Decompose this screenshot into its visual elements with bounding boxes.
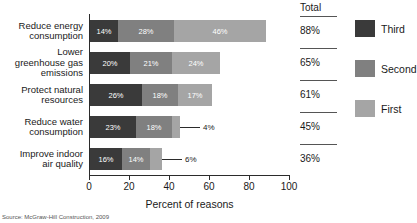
total-row-divider bbox=[300, 48, 337, 49]
bar-row[interactable]: 16%14% bbox=[90, 148, 162, 170]
total-value: 36% bbox=[300, 153, 340, 164]
total-row-divider bbox=[300, 144, 337, 145]
total-value: 61% bbox=[300, 89, 340, 100]
stacked-bar: 23%18% bbox=[90, 116, 180, 138]
bar-segment-second: 18% bbox=[142, 84, 178, 106]
total-value: 88% bbox=[300, 25, 340, 36]
category-label: Lowergreenhouse gasemissions bbox=[0, 45, 86, 81]
category-label: Improve indoorair quality bbox=[0, 141, 86, 177]
category-label-line: resources bbox=[41, 95, 83, 106]
bar-segment-first: 46% bbox=[174, 20, 266, 42]
bar-segment-second: 28% bbox=[118, 20, 174, 42]
category-label-line: air quality bbox=[42, 159, 83, 170]
legend-label: Third bbox=[381, 23, 405, 35]
x-tick-label: 20 bbox=[123, 181, 134, 192]
bar-row[interactable]: 26%18%17% bbox=[90, 84, 212, 106]
total-row-divider bbox=[300, 80, 337, 81]
x-tick-label: 80 bbox=[243, 181, 254, 192]
bar-segment-second: 18% bbox=[136, 116, 172, 138]
legend-swatch-icon bbox=[355, 20, 375, 37]
x-tick-label: 40 bbox=[163, 181, 174, 192]
plot-area: 14%28%46%20%21%24%26%18%17%23%18%4%16%14… bbox=[89, 14, 290, 175]
bar-segment-first: 17% bbox=[178, 84, 212, 106]
bar-segment-second: 14% bbox=[122, 148, 150, 170]
category-label: Reduce waterconsumption bbox=[0, 109, 86, 145]
x-tick-mark bbox=[89, 175, 90, 180]
x-axis-ticks: 020406080100 bbox=[89, 175, 290, 199]
bar-row[interactable]: 14%28%46% bbox=[90, 20, 266, 42]
bar-segment-third: 26% bbox=[90, 84, 142, 106]
x-tick-mark bbox=[289, 175, 290, 180]
legend-item-third[interactable]: Third bbox=[355, 20, 405, 37]
x-axis-title: Percent of reasons bbox=[89, 198, 290, 210]
x-tick-mark bbox=[209, 175, 210, 180]
legend-item-second[interactable]: Second bbox=[355, 60, 417, 77]
total-column-header: Total bbox=[300, 2, 340, 13]
bar-segment-first bbox=[150, 148, 162, 170]
total-row-divider bbox=[300, 16, 337, 17]
legend-label: Second bbox=[381, 63, 417, 75]
total-value: 65% bbox=[300, 57, 340, 68]
category-label: Reduce energyconsumption bbox=[0, 13, 86, 49]
bar-segment-third: 14% bbox=[90, 20, 118, 42]
callout-value-label: 4% bbox=[203, 123, 215, 132]
bar-segment-second: 21% bbox=[130, 52, 172, 74]
bar-segment-third: 20% bbox=[90, 52, 130, 74]
stacked-bar: 16%14% bbox=[90, 148, 162, 170]
bar-segment-first bbox=[172, 116, 180, 138]
callout-line bbox=[162, 159, 182, 160]
x-tick-mark bbox=[129, 175, 130, 180]
x-tick-label: 60 bbox=[203, 181, 214, 192]
bar-row[interactable]: 20%21%24% bbox=[90, 52, 220, 74]
category-label: Protect naturalresources bbox=[0, 77, 86, 113]
stacked-bar: 26%18%17% bbox=[90, 84, 212, 106]
total-value: 45% bbox=[300, 121, 340, 132]
legend-swatch-icon bbox=[355, 100, 375, 117]
stacked-bar: 20%21%24% bbox=[90, 52, 220, 74]
bar-segment-first: 24% bbox=[172, 52, 220, 74]
source-note: Source: McGraw-Hill Construction, 2009 bbox=[2, 214, 109, 220]
category-label-line: consumption bbox=[29, 31, 83, 42]
callout-line bbox=[180, 127, 200, 128]
legend-label: First bbox=[381, 103, 401, 115]
x-tick-mark bbox=[169, 175, 170, 180]
callout-value-label: 6% bbox=[185, 155, 197, 164]
legend-item-first[interactable]: First bbox=[355, 100, 401, 117]
x-tick-label: 100 bbox=[281, 181, 298, 192]
bar-segment-third: 16% bbox=[90, 148, 122, 170]
bar-row[interactable]: 23%18% bbox=[90, 116, 180, 138]
x-tick-label: 0 bbox=[86, 181, 92, 192]
category-label-line: consumption bbox=[29, 127, 83, 138]
legend-swatch-icon bbox=[355, 60, 375, 77]
bar-segment-third: 23% bbox=[90, 116, 136, 138]
x-tick-mark bbox=[249, 175, 250, 180]
total-row-divider bbox=[300, 112, 337, 113]
stacked-bar: 14%28%46% bbox=[90, 20, 266, 42]
